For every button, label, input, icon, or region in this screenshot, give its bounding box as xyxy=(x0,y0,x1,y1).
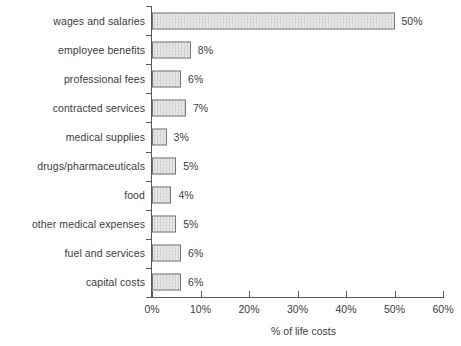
x-axis-tick xyxy=(395,291,396,298)
x-axis-title-label: % of life costs xyxy=(271,325,336,337)
bar-value-label: 6% xyxy=(188,276,203,288)
category-label: capital costs xyxy=(86,276,145,288)
bar-row: fuel and services6% xyxy=(0,239,461,268)
category-label: professional fees xyxy=(64,73,145,85)
category-label: employee benefits xyxy=(58,44,145,56)
x-axis-tick-label: 40% xyxy=(335,303,356,315)
bar-rows: wages and salaries50%employee benefits8%… xyxy=(0,0,461,292)
y-axis-tick xyxy=(146,268,152,269)
bar xyxy=(152,274,181,291)
bar-row: contracted services7% xyxy=(0,93,461,122)
bar-value-label: 8% xyxy=(198,44,213,56)
bar xyxy=(152,216,176,233)
bar-value-label: 5% xyxy=(183,218,198,230)
bar xyxy=(152,245,181,262)
x-axis-tick xyxy=(201,291,202,298)
x-axis-tick xyxy=(249,291,250,298)
y-axis-tick xyxy=(146,239,152,240)
bar-row: capital costs6% xyxy=(0,268,461,297)
bar-row: medical supplies3% xyxy=(0,122,461,151)
bar-value-label: 3% xyxy=(174,131,189,143)
bar xyxy=(152,41,191,58)
x-axis-tick xyxy=(346,291,347,298)
x-axis-tick-label: 30% xyxy=(287,303,308,315)
y-axis-tick xyxy=(146,122,152,123)
x-axis-tick xyxy=(152,291,153,298)
bar xyxy=(152,187,171,204)
x-axis-title: % of life costs xyxy=(0,325,461,337)
category-label: fuel and services xyxy=(65,247,146,259)
y-axis-tick xyxy=(146,35,152,36)
y-axis-tick xyxy=(146,152,152,153)
x-axis-tick-label: 60% xyxy=(432,303,453,315)
bar-row: professional fees6% xyxy=(0,64,461,93)
bar xyxy=(152,70,181,87)
category-label: wages and salaries xyxy=(53,15,145,27)
bar-value-label: 4% xyxy=(178,189,193,201)
x-axis-tick-label: 10% xyxy=(190,303,211,315)
bar xyxy=(152,99,186,116)
bar-value-label: 50% xyxy=(402,15,423,27)
x-axis-tick xyxy=(298,291,299,298)
bar-value-label: 6% xyxy=(188,247,203,259)
y-axis-tick xyxy=(146,181,152,182)
x-axis-tick-label: 20% xyxy=(238,303,259,315)
y-axis-tick xyxy=(146,210,152,211)
bar xyxy=(152,128,167,145)
category-label: food xyxy=(124,189,145,201)
category-label: other medical expenses xyxy=(32,218,145,230)
bar-row: wages and salaries50% xyxy=(0,6,461,35)
bar-value-label: 7% xyxy=(193,102,208,114)
bar-row: food4% xyxy=(0,181,461,210)
bar xyxy=(152,12,395,29)
bar-row: employee benefits8% xyxy=(0,35,461,64)
bar-row: drugs/pharmaceuticals5% xyxy=(0,152,461,181)
bar-value-label: 6% xyxy=(188,73,203,85)
y-axis-tick xyxy=(146,93,152,94)
bar xyxy=(152,158,176,175)
x-axis-tick xyxy=(443,291,444,298)
x-axis-tick-label: 50% xyxy=(384,303,405,315)
bar-row: other medical expenses5% xyxy=(0,210,461,239)
y-axis-tick xyxy=(146,6,152,7)
y-axis-tick xyxy=(146,64,152,65)
x-axis-tick-label: 0% xyxy=(144,303,159,315)
category-label: medical supplies xyxy=(66,131,145,143)
bar-value-label: 5% xyxy=(183,160,198,172)
category-label: contracted services xyxy=(53,102,145,114)
bar-chart: wages and salaries50%employee benefits8%… xyxy=(0,0,461,346)
category-label: drugs/pharmaceuticals xyxy=(37,160,145,172)
